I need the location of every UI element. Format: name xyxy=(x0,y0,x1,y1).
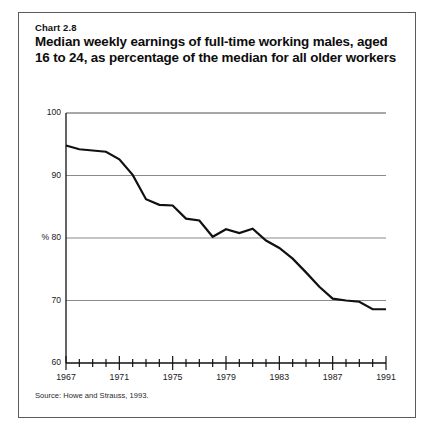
x-tick-label-1975: 1975 xyxy=(153,372,193,382)
x-tick-label-1971: 1971 xyxy=(99,372,139,382)
x-tick-label-1967: 1967 xyxy=(46,372,86,382)
gridline-group xyxy=(66,113,386,301)
y-tick-label-100: 100 xyxy=(19,107,61,117)
x-tick-label-1983: 1983 xyxy=(259,372,299,382)
y-tick-label-70: 70 xyxy=(19,295,61,305)
line-chart-svg xyxy=(19,13,417,419)
data-series-line xyxy=(66,146,386,310)
x-tick-label-1991: 1991 xyxy=(366,372,406,382)
x-tick-label-1979: 1979 xyxy=(206,372,246,382)
y-tick-label-80: % 80 xyxy=(19,232,61,242)
y-tick-label-60: 60 xyxy=(19,357,61,367)
chart-figure-frame: Chart 2.8 Median weekly earnings of full… xyxy=(18,12,416,418)
source-note: Source: Howe and Strauss, 1993. xyxy=(35,391,149,400)
chart-plot-area: 6070% 8090100 19671971197519791983198719… xyxy=(19,13,417,419)
y-tick-label-90: 90 xyxy=(19,170,61,180)
x-tick-label-1987: 1987 xyxy=(313,372,353,382)
